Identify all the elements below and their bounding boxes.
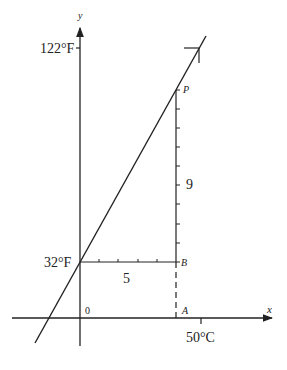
label-50c: 50°C (186, 330, 215, 345)
label-a: A (181, 305, 189, 316)
celsius-fahrenheit-diagram: y x 0 122°F 32°F 50°C P B A 5 9 (0, 0, 287, 370)
label-p: P (182, 84, 189, 95)
label-b: B (181, 257, 187, 268)
rise-ticks (176, 90, 180, 262)
label-122f: 122°F (40, 41, 75, 56)
label-32f: 32°F (44, 255, 72, 270)
conversion-line (35, 36, 206, 343)
origin-label: 0 (85, 305, 90, 316)
label-run-5: 5 (123, 271, 130, 286)
x-axis-label: x (266, 303, 272, 315)
y-axis-label: y (77, 10, 83, 21)
label-rise-9: 9 (186, 177, 193, 192)
